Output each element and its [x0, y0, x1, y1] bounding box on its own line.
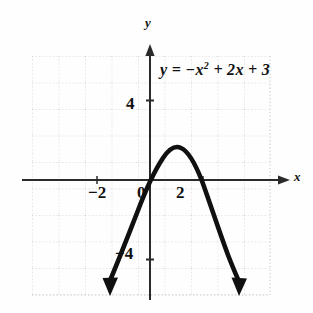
x-axis-label: x [294, 170, 301, 183]
equation-term1: −x [185, 61, 203, 78]
parabola-plot [0, 0, 313, 313]
y-tick-label-neg4: −4 [115, 245, 133, 262]
y-tick-label-4: 4 [126, 95, 135, 112]
equation-exponent: 2 [204, 60, 209, 71]
equation-term2: + 2x [213, 61, 243, 78]
x-tick-label-0: 0 [137, 184, 146, 201]
x-tick-label-neg2: −2 [88, 184, 106, 201]
y-axis-label: y [145, 16, 151, 29]
equation-label: y = −x2 + 2x + 3 [160, 62, 270, 78]
graph-figure: y = −x2 + 2x + 3 y x 4 −4 −2 0 2 [0, 0, 313, 313]
equation-lhs: y [160, 61, 167, 78]
equation-equals: = [172, 61, 181, 78]
x-axis-arrow-icon [278, 176, 290, 185]
x-tick-label-2: 2 [176, 184, 185, 201]
y-axis-arrow-icon [145, 44, 154, 56]
equation-term3: + 3 [248, 61, 270, 78]
